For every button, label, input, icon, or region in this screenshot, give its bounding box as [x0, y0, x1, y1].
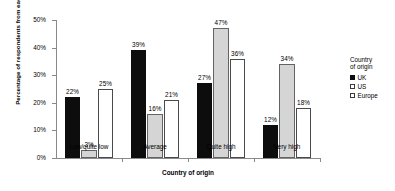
x-axis-title: Country of origin: [56, 169, 320, 176]
bar-us-2: [213, 28, 229, 158]
bar-value-label: 22%: [61, 88, 85, 95]
plot-area: 0%10%20%30%40%50% 22%3%25%39%16%21%27%47…: [56, 20, 320, 158]
y-axis-title: Percentage of respondents from each regi…: [14, 0, 22, 109]
y-axis-line: [56, 20, 57, 158]
legend-label: UK: [358, 74, 367, 81]
y-tick-label: 50%: [33, 17, 46, 23]
legend-swatch-europe: [350, 93, 355, 98]
legend-item-europe[interactable]: Europe: [350, 92, 395, 100]
x-category-label: Quite high: [188, 143, 254, 151]
legend-label: Europe: [358, 92, 378, 99]
y-tick: 50%: [52, 20, 56, 21]
bar-uk-3: [263, 125, 279, 158]
y-tick-label: 10%: [33, 127, 46, 133]
x-separator-tick: [188, 158, 189, 162]
x-separator-tick: [320, 158, 321, 162]
bar-chart: Percentage of respondents from each regi…: [0, 0, 395, 191]
x-separator-tick: [122, 158, 123, 162]
x-category-label: Very high: [254, 143, 320, 151]
legend-label: US: [358, 83, 367, 90]
legend-item-uk[interactable]: UK: [350, 74, 395, 82]
legend-item-us[interactable]: US: [350, 83, 395, 91]
y-tick-label: 20%: [33, 100, 46, 106]
legend-swatch-us: [350, 84, 355, 89]
bar-value-label: 25%: [94, 80, 118, 87]
y-tick: 30%: [52, 75, 56, 76]
bar-value-label: 34%: [275, 55, 299, 62]
y-tick: 10%: [52, 130, 56, 131]
legend: Country of origin UKUSEurope: [350, 56, 395, 101]
x-separator-tick: [254, 158, 255, 162]
bar-value-label: 47%: [209, 19, 233, 26]
y-tick-label: 40%: [33, 45, 46, 51]
legend-title: Country of origin: [350, 56, 395, 71]
y-tick: 0%: [52, 158, 56, 159]
y-tick: 20%: [52, 103, 56, 104]
bar-value-label: 21%: [160, 91, 184, 98]
y-tick: 40%: [52, 48, 56, 49]
bar-value-label: 18%: [292, 99, 316, 106]
bar-value-label: 39%: [127, 41, 151, 48]
y-tick-label: 0%: [37, 155, 46, 161]
legend-swatch-uk: [350, 75, 355, 80]
legend-items: UKUSEurope: [350, 74, 395, 100]
x-category-label: Average: [122, 143, 188, 151]
y-tick-label: 30%: [33, 72, 46, 78]
bar-value-label: 36%: [226, 50, 250, 57]
x-category-label: Low/quite low: [56, 143, 122, 151]
bar-us-1: [147, 114, 163, 158]
